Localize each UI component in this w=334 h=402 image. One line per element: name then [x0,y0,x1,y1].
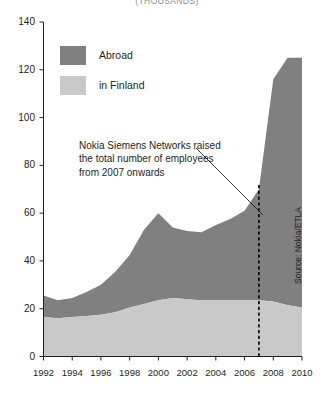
legend-label-abroad: Abroad [99,49,133,61]
legend-item-abroad: Abroad [60,44,145,66]
y-tick-label: 40 [5,256,35,266]
chart-legend: Abroad in Finland [60,44,145,104]
chart-plot-area [0,0,334,402]
x-tick-label: 2010 [282,367,322,378]
annotation-line-2: the total number of employees [79,152,251,165]
y-tick-label: 20 [5,304,35,314]
chart-figure: (THOUSANDS) 020406080100120140 199219941… [0,0,334,402]
annotation-line-3: from 2007 onwards [79,166,251,179]
legend-swatch-icon [60,76,86,95]
legend-label-in-finland: in Finland [99,79,145,91]
y-tick-label: 140 [5,17,35,27]
chart-annotation: Nokia Siemens Networks raised the total … [79,139,251,179]
y-tick-label: 60 [5,208,35,218]
source-credit: Source: Nokia/ETLA [293,194,303,284]
y-axis-ticks [40,22,44,357]
x-axis-ticks [44,357,303,361]
y-tick-label: 80 [5,160,35,170]
y-tick-label: 0 [5,352,35,362]
legend-swatch-icon [60,46,86,65]
annotation-line-1: Nokia Siemens Networks raised [79,139,251,152]
y-tick-label: 120 [5,65,35,75]
y-tick-label: 100 [5,113,35,123]
legend-item-in-finland: in Finland [60,74,145,96]
